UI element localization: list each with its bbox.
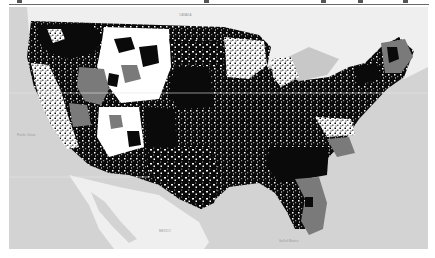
top-tick: [403, 0, 408, 3]
map-label-pacific: Pacific Ocean: [17, 133, 36, 137]
choropleth-svg: [9, 7, 428, 249]
top-tick: [358, 0, 363, 3]
map-canvas[interactable]: Pacific Ocean MEXICO Gulf of Mexico CANA…: [9, 7, 428, 249]
figure-top-border: [9, 4, 429, 5]
map-label-mexico: MEXICO: [159, 229, 171, 233]
top-tick: [17, 0, 22, 3]
top-tick: [321, 0, 326, 3]
top-tick: [204, 0, 209, 3]
map-label-canada: CANADA: [179, 13, 192, 17]
map-label-gulf: Gulf of Mexico: [279, 239, 298, 243]
